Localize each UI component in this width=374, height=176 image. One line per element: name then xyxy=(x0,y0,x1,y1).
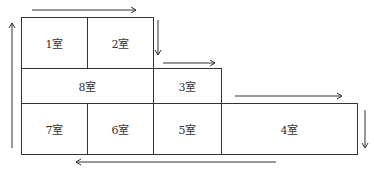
arrow-up-icon xyxy=(9,23,15,148)
arrows-layer xyxy=(0,0,374,176)
arrow-left-icon xyxy=(76,159,276,165)
arrow-right-icon xyxy=(235,93,342,99)
arrow-right-icon xyxy=(163,60,215,66)
arrow-down-icon xyxy=(362,110,368,148)
arrow-down-icon xyxy=(155,20,161,55)
arrow-right-icon xyxy=(32,7,136,13)
